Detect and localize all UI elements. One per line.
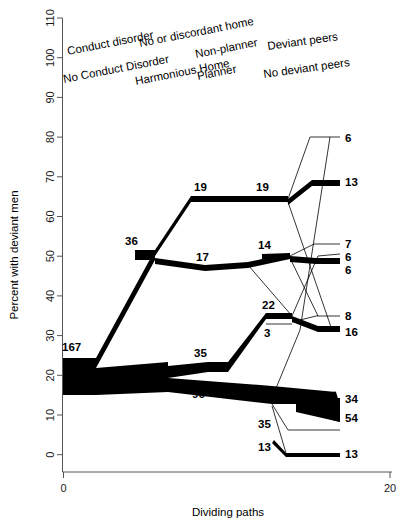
band-19-to-13 [288, 180, 340, 205]
value-s3-19: 19 [256, 181, 269, 193]
value-s3-14: 14 [258, 239, 271, 251]
y-tick-label-50: 50 [44, 250, 56, 262]
flow-diagram: 110 100 90 80 70 60 50 40 30 20 10 0 Per… [0, 0, 400, 518]
y-tick-label-70: 70 [44, 171, 56, 183]
thin-14-to-7 [290, 244, 340, 256]
band-cd-stub [135, 250, 155, 260]
value-terminal-34: 34 [345, 393, 358, 405]
y-tick-label-10: 10 [44, 409, 56, 421]
band-19-to-19 [228, 196, 288, 202]
value-terminal-16: 16 [345, 326, 358, 338]
value-ncd-nh: 35 [194, 347, 207, 359]
band-13-bottom [272, 440, 340, 457]
value-terminal-7: 7 [345, 238, 351, 250]
thin-14-cross-down [290, 258, 318, 316]
value-s3-61: 61 [258, 384, 271, 396]
y-tick-label-80: 80 [44, 131, 56, 143]
y-tick-label-0: 0 [44, 452, 56, 458]
value-s3-13: 13 [258, 441, 271, 453]
band-ncd-to-35 [168, 362, 228, 378]
y-tick-label-90: 90 [44, 91, 56, 103]
y-tick-label-110: 110 [44, 9, 56, 27]
x-axis-title: Dividing paths [192, 506, 264, 518]
value-terminal-13b: 13 [345, 448, 358, 460]
band-root-stem [63, 358, 96, 395]
value-s3-35: 35 [258, 418, 271, 430]
stage-label-no-deviant-peers: No deviant peers [263, 56, 351, 80]
value-s3-3: 3 [264, 327, 270, 339]
band-ncd-to-96 [168, 378, 272, 404]
value-terminal-8: 8 [345, 310, 352, 322]
stage-label-group: Conduct disorder No Conduct Disorder No … [62, 15, 351, 87]
value-terminal-54: 54 [345, 412, 358, 424]
chart-canvas: 110 100 90 80 70 60 50 40 30 20 10 0 Per… [0, 0, 400, 518]
y-axis: 110 100 90 80 70 60 50 40 30 20 10 0 Per… [8, 9, 63, 472]
band-96-lower-wedge [272, 398, 296, 404]
thin-19-to-6a [288, 137, 340, 199]
band-61-terminal-block [296, 398, 340, 422]
y-tick-label-100: 100 [44, 49, 56, 67]
value-terminal-6b: 6 [345, 251, 351, 263]
value-ncd-hh: 96 [192, 388, 205, 400]
band-22-to-16 [292, 316, 340, 332]
value-terminal-6a: 6 [345, 132, 351, 144]
thin-61-cross-up [272, 137, 330, 398]
band-root-to-cd [96, 250, 155, 368]
value-cd-nh: 19 [194, 181, 207, 193]
value-cd: 36 [125, 235, 138, 247]
y-tick-label-40: 40 [44, 290, 56, 302]
band-22-stub [266, 313, 292, 319]
value-cd-hh: 17 [196, 251, 209, 263]
value-terminal-6c: 6 [345, 264, 351, 276]
y-tick-label-30: 30 [44, 329, 56, 341]
value-terminal-13: 13 [345, 176, 358, 188]
x-tick-label-0: 0 [60, 482, 66, 494]
band-35-to-22 [228, 313, 292, 372]
thin-35-node-edge [228, 318, 266, 366]
y-tick-label-20: 20 [44, 369, 56, 381]
x-tick-label-20: 20 [384, 482, 396, 494]
band-cd-to-19 [155, 196, 228, 256]
value-s3-22: 22 [262, 299, 275, 311]
x-axis: 0 20 Dividing paths [60, 472, 396, 518]
y-axis-title: Percent with deviant men [8, 190, 20, 319]
band-14-stub [262, 253, 290, 260]
flow-bands [63, 180, 340, 457]
value-root: 167 [62, 341, 81, 353]
value-ncd: 131 [122, 369, 142, 381]
y-tick-label-60: 60 [44, 210, 56, 222]
stage-label-deviant-peers: Deviant peers [267, 30, 339, 52]
